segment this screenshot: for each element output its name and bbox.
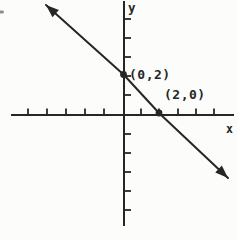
- point-label-1: (2,0): [164, 87, 206, 102]
- y-axis-label: y: [128, 0, 136, 15]
- point-dot-0: [120, 71, 127, 78]
- point-label-0: (0,2): [129, 67, 171, 82]
- coordinate-plane-figure: xy(0,2)(2,0): [0, 0, 238, 240]
- x-axis-label: x: [226, 122, 233, 136]
- stray-scan-mark: [0, 11, 4, 14]
- figure-wrap: xy(0,2)(2,0): [0, 0, 238, 240]
- point-dot-1: [156, 110, 163, 117]
